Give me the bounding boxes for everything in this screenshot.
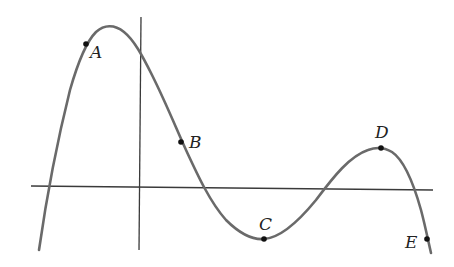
- labels-layer: ABCDE: [88, 42, 418, 252]
- point-label-e: E: [404, 232, 418, 252]
- point-label-a: A: [88, 42, 102, 62]
- x-axis: [31, 186, 433, 190]
- point-a: [83, 41, 89, 47]
- point-c: [261, 236, 267, 242]
- point-label-c: C: [259, 214, 272, 234]
- point-label-d: D: [374, 122, 389, 142]
- point-b: [178, 139, 184, 145]
- point-d: [378, 145, 384, 151]
- point-label-b: B: [188, 132, 202, 152]
- function-graph: ABCDE: [0, 0, 454, 267]
- point-e: [424, 236, 430, 242]
